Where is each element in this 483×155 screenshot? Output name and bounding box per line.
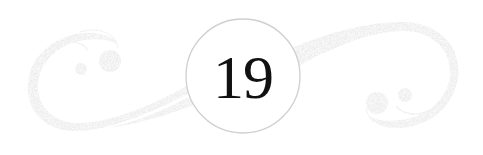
chapter-ornament: 19 — [0, 0, 483, 155]
left-large-dot-icon — [99, 50, 121, 72]
right-large-dot-icon — [366, 92, 388, 114]
right-small-dot-icon — [398, 88, 412, 102]
left-swirl-icon — [28, 30, 196, 131]
left-small-dot-icon — [75, 63, 87, 75]
left-dots — [75, 50, 121, 75]
right-dots — [366, 88, 412, 114]
chapter-number: 19 — [186, 19, 300, 133]
